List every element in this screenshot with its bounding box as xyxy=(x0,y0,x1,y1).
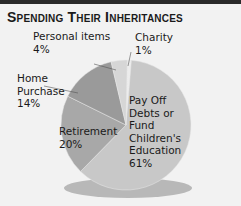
label-text: Charity xyxy=(135,31,173,44)
label-home-purchase: Home Purchase 14% xyxy=(17,72,65,110)
label-text: Retirement xyxy=(59,125,117,138)
label-text: Education xyxy=(129,144,181,157)
label-pct: 1% xyxy=(135,44,173,57)
label-text: Children's xyxy=(129,132,181,145)
label-text: Fund xyxy=(129,119,181,132)
label-personal-items: Personal items 4% xyxy=(33,30,110,55)
label-text: Home xyxy=(17,72,65,85)
label-pct: 61% xyxy=(129,157,181,170)
label-retirement: Retirement 20% xyxy=(59,125,117,150)
label-text: Purchase xyxy=(17,85,65,98)
label-text: Pay Off xyxy=(129,94,181,107)
label-pct: 20% xyxy=(59,138,117,151)
label-pay-off-debts: Pay Off Debts or Fund Children's Educati… xyxy=(129,94,181,169)
label-text: Personal items xyxy=(33,30,110,43)
label-pct: 4% xyxy=(33,43,110,56)
label-charity: Charity 1% xyxy=(135,31,173,56)
label-text: Debts or xyxy=(129,107,181,120)
label-pct: 14% xyxy=(17,97,65,110)
